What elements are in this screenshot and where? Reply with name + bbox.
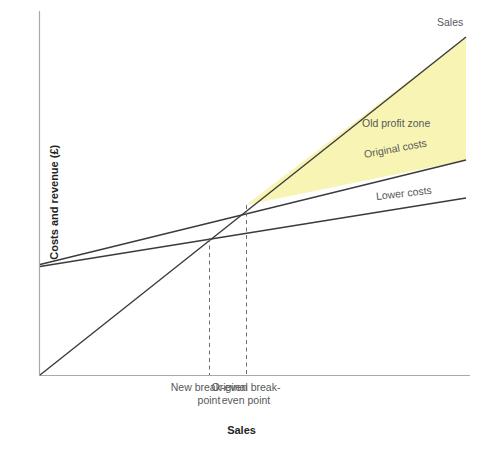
break-even-chart: Costs and revenue (£) Sales Sales Old pr…	[0, 0, 483, 456]
sales-line	[40, 37, 466, 375]
old-profit-zone-label: Old profit zone	[362, 117, 430, 130]
original-costs-line	[40, 160, 466, 265]
y-axis-title: Costs and revenue (£)	[48, 102, 61, 302]
x-tick-original-break-even-point: Original break-even point	[201, 381, 291, 406]
sales-line-label: Sales	[437, 16, 463, 29]
lower-costs-line	[40, 198, 466, 267]
old-profit-zone-fill	[246, 37, 466, 205]
x-axis-title: Sales	[0, 424, 483, 437]
